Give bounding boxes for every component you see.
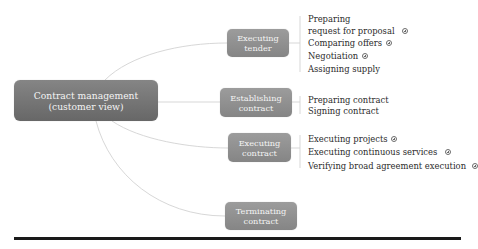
branch-node-executing-contract[interactable]: Executing contract (228, 133, 291, 162)
branch-label-line1: Executing (239, 138, 281, 148)
leaf-preparing[interactable]: Preparing (308, 14, 350, 24)
leaf-signing-contract[interactable]: Signing contract (308, 106, 379, 116)
leaf-comparing-offers[interactable]: Comparing offers (308, 38, 392, 48)
leaf-executing-projects[interactable]: Executing projects (308, 134, 397, 144)
circled-plus-icon[interactable] (362, 53, 368, 59)
branch-label-line2: contract (236, 216, 287, 226)
branch-label-line1: Establishing (230, 93, 281, 103)
circled-plus-icon[interactable] (386, 40, 392, 46)
circled-plus-icon[interactable] (391, 136, 397, 142)
circled-plus-icon[interactable] (472, 163, 478, 169)
leaf-label: Executing continuous services (308, 147, 437, 157)
leaf-label: request for proposal (308, 26, 395, 36)
root-label-line2: (customer view) (34, 101, 138, 112)
leaf-request-for-proposal[interactable]: request for proposal (308, 26, 408, 36)
connector-root-executing-tender (105, 43, 227, 80)
leaf-label: Preparing (308, 14, 350, 24)
leaf-assigning-supply[interactable]: Assigning supply (308, 64, 380, 74)
branch-label-line2: contract (239, 148, 281, 158)
leaf-preparing-contract[interactable]: Preparing contract (308, 95, 389, 105)
branch-label-line1: Terminating (236, 206, 287, 216)
circled-plus-icon[interactable] (445, 149, 451, 155)
circled-plus-icon[interactable] (402, 28, 408, 34)
branch-label-line1: Executing (237, 33, 279, 43)
branch-label-line2: tender (237, 43, 279, 53)
leaf-label: Assigning supply (308, 64, 380, 74)
root-label-line1: Contract management (34, 90, 138, 101)
leaf-label: Signing contract (308, 106, 379, 116)
connector-root-terminating-contract (96, 121, 225, 216)
leaf-verifying-broad-agreement-execution[interactable]: Verifying broad agreement execution (308, 161, 478, 171)
leaf-label: Executing projects (308, 134, 388, 144)
leaf-negotiation[interactable]: Negotiation (308, 51, 368, 61)
branch-node-terminating-contract[interactable]: Terminating contract (225, 202, 297, 230)
leaf-label: Comparing offers (308, 38, 382, 48)
leaf-label: Verifying broad agreement execution (308, 161, 466, 171)
leaf-label: Preparing contract (308, 95, 389, 105)
connector-root-executing-contract (112, 121, 228, 148)
branch-node-executing-tender[interactable]: Executing tender (227, 29, 289, 57)
leaf-executing-continuous-services[interactable]: Executing continuous services (308, 147, 451, 157)
divider-rule (14, 237, 461, 240)
branch-node-establishing-contract[interactable]: Establishing contract (220, 88, 292, 117)
leaf-label: Negotiation (308, 51, 358, 61)
root-node[interactable]: Contract management (customer view) (14, 80, 158, 121)
branch-label-line2: contract (230, 103, 281, 113)
